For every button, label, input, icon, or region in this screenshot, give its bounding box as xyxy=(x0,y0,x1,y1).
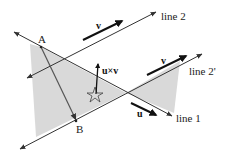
u-vector-line1 xyxy=(131,103,156,115)
cross-product-label: u×v xyxy=(102,65,118,76)
point-b-dot xyxy=(75,120,78,123)
line-2-label: line 2 xyxy=(161,10,186,22)
v-label-line2-prime: v xyxy=(161,55,166,66)
line-2 xyxy=(27,12,156,78)
v-vector-line2 xyxy=(83,21,122,40)
point-a-label: A xyxy=(38,33,46,45)
point-b-label: B xyxy=(76,123,83,135)
line-2-prime-label: line 2' xyxy=(189,65,216,77)
skew-lines-diagram: line 2 line 2' line 1 A B v v u u×v xyxy=(0,0,231,162)
v-label-line2: v xyxy=(96,20,101,31)
u-label-line1: u xyxy=(137,108,143,119)
line-1-label: line 1 xyxy=(176,112,201,124)
point-a-dot xyxy=(40,46,43,49)
